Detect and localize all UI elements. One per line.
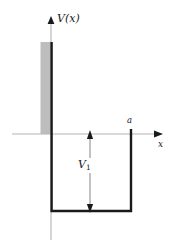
well-depth-label: V1 xyxy=(76,158,93,173)
well-depth-symbol: V xyxy=(78,158,86,171)
y-axis-arrowhead xyxy=(48,16,55,24)
potential-curve xyxy=(52,42,131,211)
x-axis-arrowhead xyxy=(154,130,163,137)
well-depth-subscript: 1 xyxy=(86,163,91,172)
y-axis-label: V(x) xyxy=(57,12,80,25)
potential-well-figure: V(x) x a V1 xyxy=(0,0,175,250)
x-axis-label: x xyxy=(158,139,163,149)
potential-well-diagram xyxy=(0,0,175,250)
shaded-barrier-region xyxy=(41,42,52,134)
well-right-edge-label: a xyxy=(127,115,132,125)
